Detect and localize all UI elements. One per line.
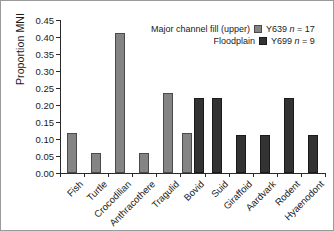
bar-anthracothere-y639 <box>139 153 149 173</box>
y-axis-tick-label: 0.05 <box>36 151 55 162</box>
y-axis-tick-label: 0.30 <box>36 66 55 77</box>
legend-swatch-icon <box>254 25 262 33</box>
y-axis-tick-label: 0.10 <box>36 134 55 145</box>
x-axis-tick-mark <box>108 173 109 177</box>
x-axis-tick-mark <box>277 173 278 177</box>
y-axis-tick-mark <box>56 37 60 38</box>
bar-rodent-y699 <box>284 98 294 173</box>
y-axis-tick-label: 0.40 <box>36 32 55 43</box>
y-axis-tick-mark <box>56 88 60 89</box>
y-axis-tick-label: 0.15 <box>36 117 55 128</box>
y-axis-tick-mark <box>56 122 60 123</box>
x-axis-tick-mark <box>84 173 85 177</box>
legend-row-2: FloodplainY699 n = 9 <box>151 35 315 47</box>
x-axis-tick-mark <box>301 173 302 177</box>
y-axis-tick-label: 0.00 <box>36 168 55 179</box>
bar-fish-y639 <box>67 133 77 173</box>
x-axis-label-fish: Fish <box>65 179 84 198</box>
legend-description: Major channel fill (upper) <box>151 23 250 35</box>
y-axis-tick-mark <box>56 54 60 55</box>
bar-giraffoid-y699 <box>236 135 246 173</box>
x-axis-line <box>60 173 326 174</box>
bar-chart-figure: Proportion MNI 0.000.050.100.150.200.250… <box>0 0 334 231</box>
bar-tragulid-y639 <box>163 93 173 173</box>
x-axis-tick-mark <box>60 173 61 177</box>
y-axis-title: Proportion MNI <box>14 0 30 114</box>
x-axis-tick-mark <box>132 173 133 177</box>
legend-swatch-icon <box>259 37 267 45</box>
x-axis-tick-mark <box>253 173 254 177</box>
bar-hyaenodont-y699 <box>308 135 318 173</box>
y-axis-tick-mark <box>56 20 60 21</box>
bar-aardvark-y699 <box>260 135 270 173</box>
y-axis-tick-label: 0.45 <box>36 15 55 26</box>
x-axis-tick-mark <box>156 173 157 177</box>
bar-bovid-y699 <box>194 98 204 173</box>
y-axis-line <box>60 20 61 174</box>
bar-turtle-y639 <box>91 153 101 173</box>
y-axis-tick-label: 0.20 <box>36 100 55 111</box>
x-axis-tick-mark <box>325 173 326 177</box>
y-axis-tick-label: 0.35 <box>36 49 55 60</box>
bar-bovid-y639 <box>182 133 192 173</box>
y-axis-tick-mark <box>56 105 60 106</box>
x-axis-tick-mark <box>180 173 181 177</box>
legend-n-symbol: n <box>295 36 300 46</box>
bar-suid-y699 <box>212 98 222 173</box>
y-axis-tick-label: 0.25 <box>36 83 55 94</box>
legend-n-symbol: n <box>290 24 295 34</box>
x-axis-tick-mark <box>229 173 230 177</box>
legend-series-key: Y639 n = 17 <box>266 23 315 35</box>
x-axis-label-suid: Suid <box>209 179 229 199</box>
y-axis-tick-mark <box>56 71 60 72</box>
legend-row-1: Major channel fill (upper)Y639 n = 17 <box>151 23 315 35</box>
bar-crocodilian-y639 <box>115 33 125 173</box>
legend-description: Floodplain <box>214 35 256 47</box>
y-axis-tick-mark <box>56 139 60 140</box>
chart-legend: Major channel fill (upper)Y639 n = 17Flo… <box>151 23 315 47</box>
legend-series-key: Y699 n = 9 <box>271 35 315 47</box>
x-axis-category-labels: FishTurtleCrocodilianAnthracothereTragul… <box>60 179 330 231</box>
x-axis-tick-mark <box>205 173 206 177</box>
y-axis-tick-mark <box>56 156 60 157</box>
x-axis-label-bovid: Bovid <box>182 179 206 203</box>
